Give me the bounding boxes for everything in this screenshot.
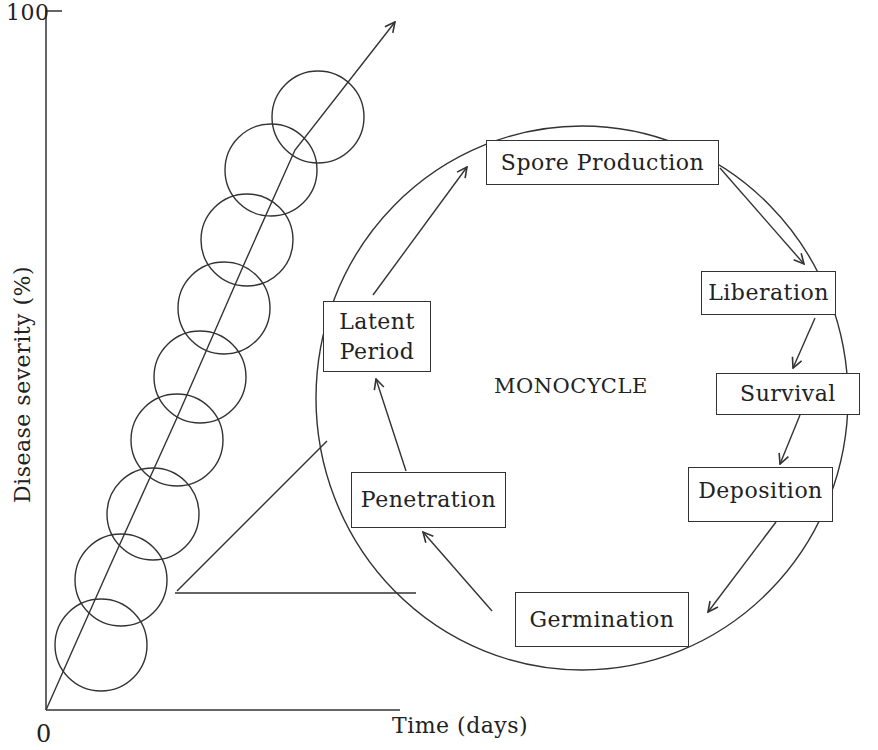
- monocycle-circle: [55, 599, 147, 691]
- monocycle-circle: [272, 71, 364, 163]
- stage-label: Survival: [740, 379, 836, 409]
- origin-label: 0: [36, 720, 52, 748]
- arrow-survival-to-deposition: [780, 415, 800, 464]
- stage-latent-period: Latent Period: [323, 301, 431, 372]
- monocycle-circle: [154, 331, 246, 423]
- arrow-liberation-to-survival: [793, 318, 815, 368]
- stage-label: Latent Period: [339, 307, 415, 367]
- stage-label: Deposition: [698, 476, 823, 506]
- stage-label: Germination: [529, 605, 674, 635]
- stage-liberation: Liberation: [701, 271, 836, 315]
- monocycle-label: MONOCYCLE: [494, 374, 648, 398]
- arrow-germination-to-penetration: [423, 532, 492, 611]
- monocycle-circles: [55, 71, 364, 691]
- monocycle-circle: [178, 262, 270, 354]
- stage-label: Liberation: [708, 278, 829, 308]
- y-axis: [46, 10, 62, 710]
- arrow-penetration-to-latent: [376, 379, 406, 471]
- stage-penetration: Penetration: [351, 472, 506, 528]
- stage-survival: Survival: [716, 373, 860, 415]
- stage-label: Penetration: [361, 485, 496, 515]
- arrow-latent-to-spore: [373, 167, 467, 295]
- y-axis-max-tick: 100: [6, 0, 50, 25]
- stage-germination: Germination: [515, 592, 689, 647]
- monocycle-circle: [201, 194, 293, 286]
- stage-spore-production: Spore Production: [486, 140, 719, 185]
- arrow-deposition-to-germination: [708, 522, 776, 612]
- arrow-spore-to-liberation: [720, 168, 804, 264]
- stage-deposition: Deposition: [688, 467, 833, 522]
- stage-label: Spore Production: [501, 148, 704, 178]
- monocycle-circle: [131, 394, 223, 486]
- y-axis-label: Disease severity (%): [10, 265, 35, 505]
- x-axis-label: Time (days): [392, 713, 528, 738]
